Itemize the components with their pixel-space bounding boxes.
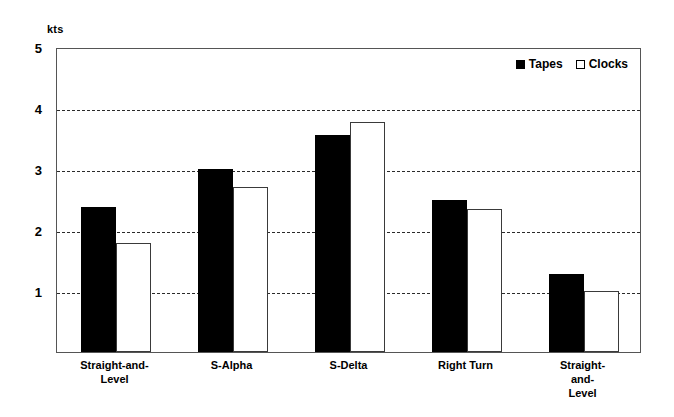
x-axis: Straight-and- LevelS-AlphaS-DeltaRight T… bbox=[56, 358, 641, 408]
legend-entry: Tapes bbox=[516, 58, 563, 70]
x-tick-label: S-Alpha bbox=[211, 358, 253, 372]
y-tick-label: 5 bbox=[35, 42, 42, 55]
x-tick-label: Straight-and- Level bbox=[553, 358, 612, 400]
y-axis: 12345 bbox=[0, 0, 56, 417]
bar-chart: kts 12345 TapesClocks Straight-and- Leve… bbox=[0, 0, 674, 417]
x-tick-label: S-Delta bbox=[330, 358, 368, 372]
bar-tapes-2 bbox=[315, 135, 350, 352]
filled-square-icon bbox=[516, 60, 525, 69]
bar-clocks-1 bbox=[233, 187, 268, 352]
legend-entry: Clocks bbox=[576, 58, 628, 70]
y-tick-label: 2 bbox=[35, 225, 42, 238]
bar-tapes-0 bbox=[81, 207, 116, 352]
y-tick-label: 4 bbox=[35, 103, 42, 116]
x-tick-label: Straight-and- Level bbox=[80, 358, 148, 386]
bar-tapes-1 bbox=[198, 169, 233, 352]
legend-label: Clocks bbox=[589, 58, 628, 70]
bars-layer bbox=[57, 49, 640, 352]
y-tick-label: 1 bbox=[35, 286, 42, 299]
y-tick-label: 3 bbox=[35, 164, 42, 177]
plot-area: TapesClocks bbox=[56, 48, 641, 353]
bar-tapes-3 bbox=[432, 200, 467, 353]
legend: TapesClocks bbox=[516, 58, 628, 70]
bar-clocks-4 bbox=[584, 291, 619, 352]
x-tick-label: Right Turn bbox=[438, 358, 493, 372]
bar-tapes-4 bbox=[549, 274, 584, 352]
hollow-square-icon bbox=[576, 60, 585, 69]
legend-label: Tapes bbox=[529, 58, 563, 70]
bar-clocks-2 bbox=[350, 122, 385, 352]
bar-clocks-3 bbox=[467, 209, 502, 352]
bar-clocks-0 bbox=[116, 243, 151, 352]
